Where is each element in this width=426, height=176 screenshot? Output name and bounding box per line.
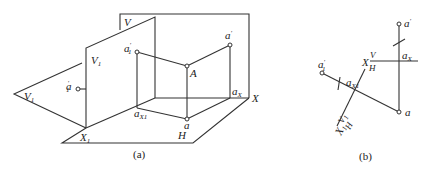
label-aX1-b: aX1 (346, 76, 359, 90)
label-a-b: a (405, 106, 411, 118)
caption-b: (b) (359, 150, 372, 163)
label-H-b: H (368, 63, 376, 73)
label-aX: aX (232, 85, 243, 99)
point-A (185, 64, 189, 68)
label-aX-b: aX (402, 49, 413, 63)
label-a1p-rotated: a′1 (66, 79, 72, 94)
label-V1-rotated: V1 (24, 90, 34, 104)
v1-plane (86, 17, 155, 128)
label-ap-b: a′ (404, 17, 412, 29)
proj-A-ap (187, 45, 230, 66)
point-a1p (135, 50, 139, 54)
figure-a: V V1 V1 a′1 a′1 A a′ aX aX1 a H X X1 (a) (14, 14, 260, 161)
figure-b: a′ X V H aX a′1 aX1 a V1 X1 H (b) (318, 17, 418, 163)
label-ap: a′ (225, 29, 233, 41)
point-a1p-rotated (76, 87, 80, 91)
label-V: V (124, 16, 132, 28)
proj-a-aX (187, 98, 230, 119)
label-V1: V1 (91, 54, 101, 68)
label-X: X (251, 92, 260, 104)
label-X1: X1 (79, 131, 90, 145)
proj-a1p-A (137, 52, 187, 66)
label-a1p: a′1 (124, 41, 132, 56)
caption-a: (a) (133, 148, 146, 161)
point-ap (228, 43, 232, 47)
label-A: A (189, 67, 197, 79)
projection-diagram: V V1 V1 a′1 a′1 A a′ aX aX1 a H X X1 (a)… (0, 0, 426, 176)
label-a1p-b: a′1 (318, 58, 326, 73)
tick-mark-slanted (338, 77, 340, 90)
label-H: H (177, 129, 187, 141)
point-a-b (397, 110, 401, 114)
label-V-b: V (370, 50, 377, 60)
point-ap-b (397, 22, 401, 26)
